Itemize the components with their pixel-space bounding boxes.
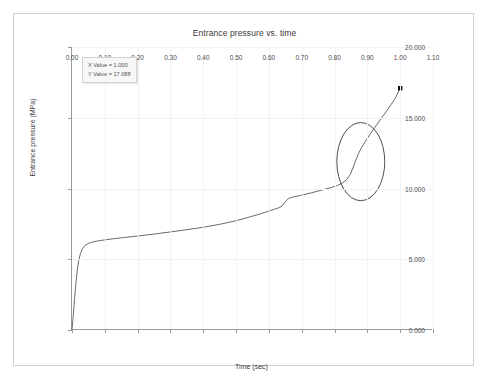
x-tick-mark (170, 329, 171, 333)
gridline-vertical (433, 47, 434, 329)
y-axis-title: Entrance pressure (MPa) (29, 58, 36, 218)
x-tick-mark (138, 329, 139, 333)
datatip-y-value: Y Value = 17.088 (88, 70, 131, 79)
x-tick-mark (72, 329, 73, 333)
chart-title: Entrance pressure vs. time (14, 28, 475, 38)
x-tick-label: 1.00 (394, 54, 407, 61)
x-tick-mark (105, 329, 106, 333)
x-tick-mark (203, 329, 204, 333)
x-tick-label: 0.40 (197, 54, 210, 61)
x-tick-label: 0.30 (164, 54, 177, 61)
x-tick-label: 0.50 (230, 54, 243, 61)
x-tick-mark (335, 329, 336, 333)
gridline-horizontal (72, 47, 432, 48)
x-tick-label: 0.60 (263, 54, 276, 61)
y-tick-mark (68, 47, 72, 48)
y-tick-label: 0.000 (409, 327, 425, 334)
gridline-horizontal (72, 189, 432, 190)
y-tick-mark (68, 330, 72, 331)
x-tick-mark (433, 329, 434, 333)
y-tick-label: 10.000 (405, 185, 425, 192)
gridline-horizontal (72, 259, 432, 260)
plot-area: 0.000.100.200.300.400.500.600.700.800.90… (71, 47, 432, 330)
x-tick-label: 0.90 (361, 54, 374, 61)
x-tick-label: 0.00 (66, 54, 79, 61)
y-tick-mark (68, 259, 72, 260)
y-tick-label: 5.000 (409, 256, 425, 263)
x-tick-mark (269, 329, 270, 333)
x-tick-mark (236, 329, 237, 333)
x-tick-label: 0.70 (295, 54, 308, 61)
y-tick-mark (68, 118, 72, 119)
chart-window: Entrance pressure vs. time 0.000.100.200… (0, 0, 489, 376)
x-tick-mark (367, 329, 368, 333)
x-tick-label: 1.10 (427, 54, 440, 61)
x-tick-mark (302, 329, 303, 333)
x-tick-mark (400, 329, 401, 333)
cursor-datatip[interactable]: X Value = 1.000 Y Value = 17.088 (82, 57, 137, 83)
x-tick-label: 0.80 (328, 54, 341, 61)
datatip-x-value: X Value = 1.000 (88, 61, 131, 70)
x-axis-title: Time (sec) (71, 363, 432, 370)
y-tick-mark (68, 189, 72, 190)
gridline-horizontal (72, 118, 432, 119)
y-tick-label: 15.000 (405, 114, 425, 121)
y-tick-label: 20.000 (405, 44, 425, 51)
figure-frame: Entrance pressure vs. time 0.000.100.200… (13, 13, 474, 366)
